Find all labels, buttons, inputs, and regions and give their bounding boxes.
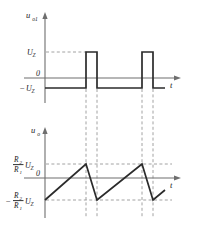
uo-negative-sign: − [6, 196, 11, 206]
uo1-time-axis-label: t [170, 80, 173, 90]
uo-positive-level-label: R 2 R 1 U Z [13, 155, 35, 175]
uo-negative-factor-subscript: Z [31, 201, 35, 207]
chart-uo: u o t 0 R 2 R 1 U Z − R 2 R [6, 125, 181, 218]
uo-negative-level-label: − R 2 R 1 U Z [6, 191, 35, 211]
uo-negative-denominator: R [13, 201, 19, 210]
waveform-figure: u o1 t 0 U Z − U Z [0, 0, 208, 225]
uo1-axis-label: u [26, 10, 30, 20]
uo1-vertical-axis-arrowhead [42, 12, 47, 19]
uo1-positive-level-subscript: Z [33, 52, 37, 58]
uo-time-axis-arrowhead [174, 175, 181, 180]
waveform-diagram: u o1 t 0 U Z − U Z [0, 0, 208, 225]
uo1-time-axis-arrowhead [174, 75, 181, 80]
uo1-axis-label-subscript: o1 [32, 16, 38, 22]
uo-positive-numerator-subscript: 2 [19, 160, 22, 165]
uo-negative-numerator: R [13, 191, 19, 200]
uo1-negative-level-subscript: Z [32, 88, 36, 94]
uo1-zero-label: 0 [36, 69, 40, 78]
uo-negative-numerator-subscript: 2 [19, 196, 22, 201]
uo-positive-factor-subscript: Z [31, 165, 35, 171]
uo1-negative-level-label: − U Z [20, 83, 36, 94]
uo1-negative-level-sign: − [20, 83, 25, 93]
uo-time-axis-label: t [170, 180, 173, 190]
uo-negative-denominator-subscript: 1 [19, 206, 22, 211]
uo-signal-waveform [45, 164, 165, 200]
uo-zero-label: 0 [36, 169, 40, 178]
uo-axis-label: u [31, 125, 35, 135]
uo-positive-denominator: R [13, 165, 19, 174]
uo1-positive-level-label: U Z [27, 48, 37, 58]
uo1-signal-waveform [45, 52, 165, 88]
uo-positive-numerator: R [13, 155, 19, 164]
chart-uo1: u o1 t 0 U Z − U Z [20, 10, 181, 103]
uo-vertical-axis-arrowhead [42, 127, 47, 134]
uo-positive-denominator-subscript: 1 [19, 170, 22, 175]
uo-axis-label-subscript: o [37, 131, 40, 137]
